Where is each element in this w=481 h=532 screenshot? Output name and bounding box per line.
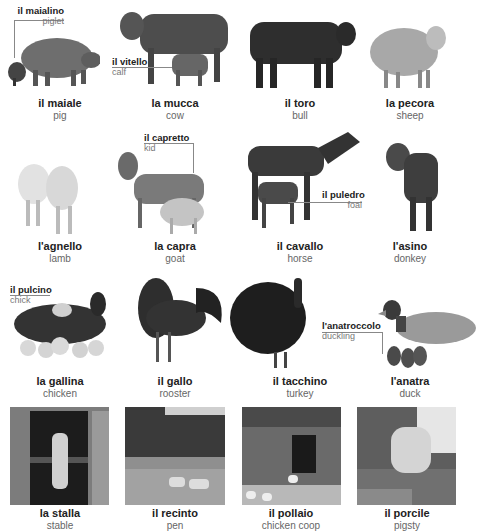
- caption-chicken: la gallina chicken: [0, 375, 120, 400]
- caption-pen: il recinto pen: [115, 507, 235, 532]
- caption-turkey: il tacchino turkey: [240, 375, 360, 400]
- goat-image: [104, 144, 214, 236]
- label-kid: il capretto kid: [144, 132, 189, 154]
- caption-chicken-coop: il pollaio chicken coop: [231, 507, 351, 532]
- pen-photo: [125, 407, 225, 505]
- caption-bull: il toro bull: [240, 97, 360, 122]
- horse-image: [238, 128, 363, 233]
- label-duckling: l'anatroccolo duckling: [322, 320, 381, 342]
- donkey-image: [378, 133, 444, 235]
- label-chick: il pulcino chick: [10, 284, 52, 306]
- duck-image: [376, 292, 480, 372]
- pig-image: [5, 30, 100, 90]
- pigsty-photo: [357, 407, 456, 505]
- caption-duck: l'anatra duck: [350, 375, 470, 400]
- chicken-coop-photo: [242, 407, 341, 505]
- caption-pig: il maiale pig: [0, 97, 120, 122]
- sheep-image: [366, 22, 450, 92]
- leader-line: [14, 20, 15, 58]
- caption-goat: la capra goat: [115, 240, 235, 265]
- leader-line: [193, 143, 194, 173]
- caption-stable: la stalla stable: [0, 507, 120, 532]
- caption-pigsty: il porcile pigsty: [347, 507, 467, 532]
- turkey-image: [228, 272, 320, 370]
- stable-photo: [10, 407, 109, 505]
- label-foal: il puledro foal: [322, 189, 362, 211]
- caption-lamb: l'agnello lamb: [0, 240, 120, 265]
- caption-cow: la mucca cow: [115, 97, 235, 122]
- label-calf: il vitello calf: [112, 56, 147, 78]
- lamb-image: [10, 152, 90, 237]
- caption-sheep: la pecora sheep: [350, 97, 470, 122]
- caption-rooster: il gallo rooster: [115, 375, 235, 400]
- caption-donkey: l'asino donkey: [350, 240, 470, 265]
- rooster-image: [126, 268, 226, 370]
- caption-horse: il cavallo horse: [240, 240, 360, 265]
- label-piglet: il maialino piglet: [16, 5, 64, 27]
- bull-image: [242, 18, 357, 92]
- leader-line: [382, 332, 383, 354]
